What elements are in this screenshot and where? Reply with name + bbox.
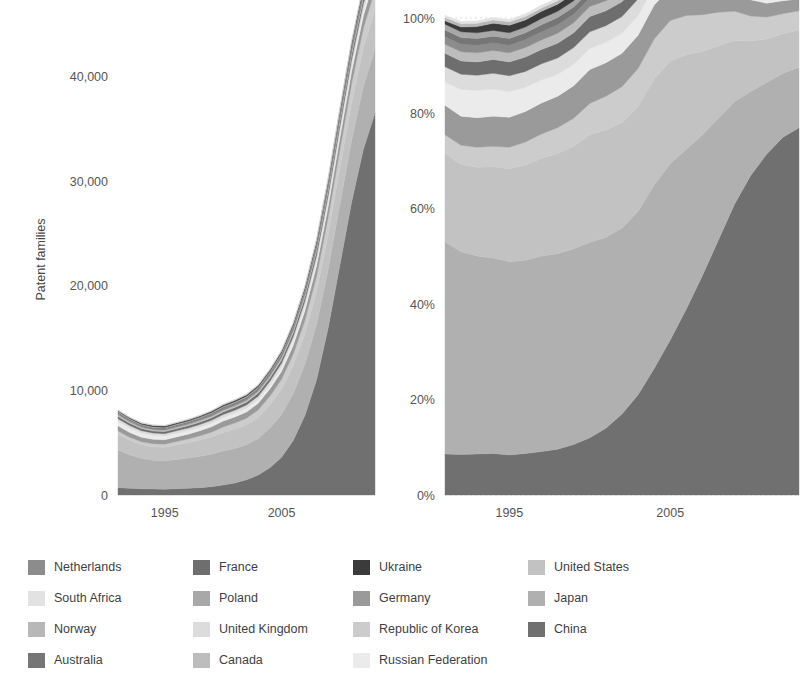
share-area-chart: 0%20%40%60%80%100%19952005	[400, 0, 809, 540]
legend-item-label: Republic of Korea	[379, 622, 478, 637]
legend-item[interactable]: China	[528, 614, 678, 645]
x-tick-label: 1995	[495, 506, 523, 520]
legend-item[interactable]: Ukraine	[353, 552, 528, 583]
legend-item[interactable]: Japan	[528, 583, 678, 614]
legend-item-label: Norway	[54, 622, 96, 637]
legend-item-label: Netherlands	[54, 560, 121, 575]
legend-grid: NetherlandsFranceUkraineUnited StatesSou…	[28, 552, 678, 675]
legend-swatch-icon	[353, 560, 370, 575]
legend-swatch-icon	[28, 622, 45, 637]
legend-region: NetherlandsFranceUkraineUnited StatesSou…	[0, 540, 809, 675]
legend-item-label: Germany	[379, 591, 430, 606]
y-tick-label: 20,000	[70, 279, 108, 293]
legend-swatch-icon	[28, 591, 45, 606]
legend-swatch-icon	[528, 622, 545, 637]
x-tick-label: 2005	[268, 506, 296, 520]
legend-item-label: United States	[554, 560, 629, 575]
legend-item[interactable]: United States	[528, 552, 678, 583]
x-tick-label: 2005	[656, 506, 684, 520]
legend-item-label: Russian Federation	[379, 653, 487, 668]
legend-item-label: United Kingdom	[219, 622, 308, 637]
legend-item[interactable]: Australia	[28, 645, 193, 675]
legend-item[interactable]: South Africa	[28, 583, 193, 614]
charts-row: 010,00020,00030,00040,00019952005Patent …	[0, 0, 809, 540]
legend-item[interactable]: United Kingdom	[193, 614, 353, 645]
legend-swatch-icon	[353, 622, 370, 637]
legend-item-label: Canada	[219, 653, 263, 668]
y-tick-label: 100%	[403, 12, 435, 26]
y-tick-label: 0	[101, 489, 108, 503]
legend-empty-cell	[528, 645, 678, 675]
legend-item-label: South Africa	[54, 591, 121, 606]
y-tick-label: 40,000	[70, 70, 108, 84]
legend-item[interactable]: Russian Federation	[353, 645, 528, 675]
legend-swatch-icon	[353, 653, 370, 668]
y-tick-label: 30,000	[70, 175, 108, 189]
legend-swatch-icon	[193, 560, 210, 575]
legend-swatch-icon	[353, 591, 370, 606]
legend-swatch-icon	[193, 622, 210, 637]
legend-item[interactable]: Netherlands	[28, 552, 193, 583]
legend-swatch-icon	[28, 560, 45, 575]
legend-item-label: Ukraine	[379, 560, 422, 575]
legend-item[interactable]: Republic of Korea	[353, 614, 528, 645]
legend-item-label: Poland	[219, 591, 258, 606]
legend-item-label: Australia	[54, 653, 103, 668]
legend-item-label: France	[219, 560, 258, 575]
absolute-area-chart: 010,00020,00030,00040,00019952005Patent …	[0, 0, 400, 540]
figure-root: 010,00020,00030,00040,00019952005Patent …	[0, 0, 809, 675]
legend-item[interactable]: Canada	[193, 645, 353, 675]
y-tick-label: 20%	[410, 393, 435, 407]
legend-item[interactable]: France	[193, 552, 353, 583]
legend-item-label: Japan	[554, 591, 588, 606]
legend-item[interactable]: Norway	[28, 614, 193, 645]
y-tick-label: 60%	[410, 202, 435, 216]
absolute-chart-panel: 010,00020,00030,00040,00019952005Patent …	[0, 0, 400, 540]
legend-swatch-icon	[28, 653, 45, 668]
legend-swatch-icon	[193, 653, 210, 668]
legend-swatch-icon	[528, 591, 545, 606]
y-tick-label: 80%	[410, 107, 435, 121]
legend-item-label: China	[554, 622, 587, 637]
legend-swatch-icon	[193, 591, 210, 606]
legend-item[interactable]: Germany	[353, 583, 528, 614]
y-tick-label: 40%	[410, 298, 435, 312]
y-axis-title: Patent families	[34, 219, 48, 301]
y-tick-label: 0%	[417, 489, 435, 503]
share-chart-panel: 0%20%40%60%80%100%19952005	[400, 0, 809, 540]
y-tick-label: 10,000	[70, 384, 108, 398]
legend-item[interactable]: Poland	[193, 583, 353, 614]
x-tick-label: 1995	[151, 506, 179, 520]
legend-swatch-icon	[528, 560, 545, 575]
